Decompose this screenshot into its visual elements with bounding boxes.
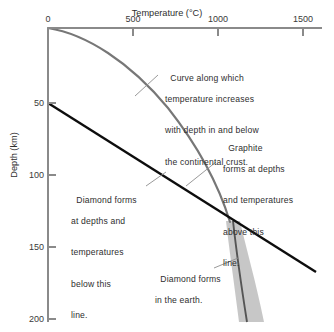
x-tick-label-500: 500 [125,14,140,24]
annotation-geotherm-line-1: Curve along which [170,73,244,83]
annotation-graphite-line-3: and temperatures [218,195,293,205]
annotation-graphite-line-4: above this [218,227,293,237]
y-tick-label-50: 50 [16,98,44,108]
annotation-earth-line-1: Diamond forms [160,274,221,284]
annotation-earth: Diamond forms in the earth. [150,264,221,326]
annotation-diamond-line-3: temperatures [66,247,137,257]
annotation-diamond-line-5: line. [66,310,137,320]
annotation-diamond-line-4: below this [66,279,137,289]
annotation-graphite-line-1: Graphite [228,143,262,153]
annotation-graphite-line-5: line. [218,258,293,268]
annotation-graphite: Graphite forms at depths and temperature… [218,133,293,289]
y-tick-label-200: 200 [16,314,44,324]
annotation-diamond-line-1: Diamond forms [76,195,137,205]
y-tick-label-150: 150 [16,242,44,252]
annotation-graphite-line-2: forms at depths [218,164,293,174]
figure-container: Temperature (°C) Depth (km) 0 500 1000 1… [0,0,334,332]
x-tick-label-1500: 1500 [293,14,313,24]
annotation-geotherm-line-2: temperature increases [160,94,259,104]
x-tick-label-0: 0 [45,14,50,24]
annotation-diamond: Diamond forms at depths and temperatures… [66,185,137,332]
y-tick-label-100: 100 [16,170,44,180]
annotation-earth-line-2: in the earth. [150,295,221,305]
x-tick-label-1000: 1000 [208,14,228,24]
annotation-diamond-line-2: at depths and [66,216,137,226]
